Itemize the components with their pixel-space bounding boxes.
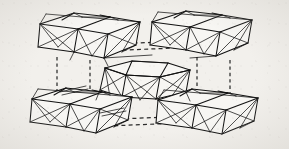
polyhedral-lattice-drawing xyxy=(0,0,289,149)
figure-root xyxy=(0,0,289,149)
